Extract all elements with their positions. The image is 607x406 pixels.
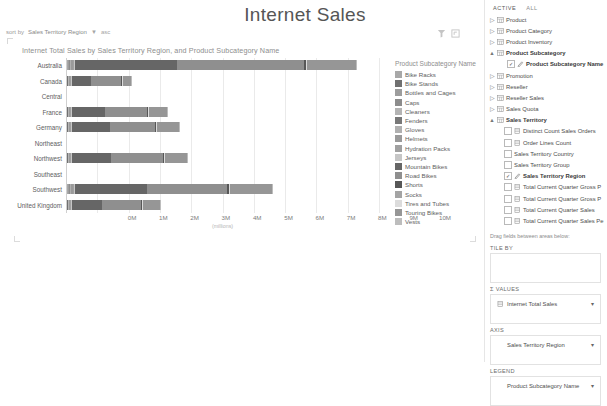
field-list-item[interactable]: Product Subcategory Name	[489, 59, 607, 70]
bar-segment[interactable]	[165, 153, 187, 163]
bar-segment[interactable]	[143, 200, 160, 210]
field-list-item[interactable]: Sales Territory Country	[489, 148, 607, 159]
well-drop-area[interactable]: Product Subcategory Name▾	[490, 376, 601, 406]
bar-segment[interactable]	[72, 153, 111, 163]
bar-row[interactable]	[67, 122, 179, 132]
expander-icon[interactable]: ▲	[489, 117, 495, 123]
bar-row[interactable]	[67, 200, 161, 210]
bar-row[interactable]	[67, 184, 273, 194]
y-axis-category-label[interactable]: Germany	[36, 123, 62, 132]
bar-segment[interactable]	[72, 122, 110, 132]
focus-mode-icon[interactable]	[451, 29, 460, 38]
legend-item[interactable]: Bike Stands	[395, 79, 481, 88]
bar-segment[interactable]	[102, 200, 141, 210]
well-drop-area[interactable]: Internet Total Sales▾	[490, 294, 601, 324]
sort-direction-label[interactable]: asc	[101, 29, 110, 35]
y-axis-category-label[interactable]: Northwest	[34, 154, 62, 163]
legend-item[interactable]: Helmets	[395, 134, 481, 143]
bar-segment[interactable]	[149, 107, 168, 117]
y-axis-category-label[interactable]: Canada	[40, 77, 62, 86]
legend-item[interactable]: Socks	[395, 189, 481, 198]
bar-segment[interactable]	[187, 153, 188, 163]
field-list-item[interactable]: Total Current Quarter Sales Pe	[489, 215, 607, 226]
field-checkbox[interactable]	[504, 161, 512, 169]
bar-segment[interactable]	[272, 184, 273, 194]
legend-item[interactable]: Jerseys	[395, 153, 481, 162]
y-axis-category-label[interactable]: United Kingdom	[17, 201, 62, 210]
bar-segment[interactable]	[123, 76, 132, 86]
legend-item[interactable]: Mountain Bikes	[395, 162, 481, 171]
well-drop-area[interactable]: Sales Territory Region▾	[490, 335, 601, 365]
chevron-down-icon[interactable]: ▾	[591, 383, 594, 389]
bar-segment[interactable]	[105, 107, 147, 117]
bar-segment[interactable]	[179, 122, 180, 132]
chevron-down-icon[interactable]: ▼	[91, 29, 97, 35]
field-list-item[interactable]: Total Current Quarter Gross P	[489, 182, 607, 193]
field-checkbox[interactable]	[504, 183, 512, 191]
y-axis-category-label[interactable]: Australia	[38, 61, 63, 70]
legend-item[interactable]: Bike Racks	[395, 70, 481, 79]
expander-icon[interactable]: ▷	[489, 17, 495, 23]
field-checkbox[interactable]	[507, 60, 515, 68]
expander-icon[interactable]: ▷	[489, 39, 495, 45]
field-list-item[interactable]: Total Current Quarter Sales	[489, 204, 607, 215]
bar-segment[interactable]	[72, 200, 102, 210]
field-checkbox[interactable]	[504, 139, 512, 147]
well-field-chip[interactable]: Internet Total Sales▾	[494, 298, 597, 310]
bar-row[interactable]	[67, 153, 187, 163]
bar-segment[interactable]	[356, 60, 357, 70]
bar-segment[interactable]	[75, 184, 147, 194]
field-list-item[interactable]: Order Lines Count	[489, 137, 607, 148]
field-checkbox[interactable]	[504, 206, 512, 214]
field-list-item[interactable]: Sales Territory Region	[489, 171, 607, 182]
legend-item[interactable]: Gloves	[395, 125, 481, 134]
expander-icon[interactable]: ▲	[489, 50, 495, 56]
pane-tab-active[interactable]: ACTIVE	[493, 5, 516, 11]
y-axis-category-label[interactable]: Northeast	[35, 139, 62, 148]
legend-item[interactable]: Touring Bikes	[395, 208, 481, 217]
bar-segment[interactable]	[111, 153, 163, 163]
field-list-item[interactable]: ▷Promotion	[489, 70, 607, 81]
bar-segment[interactable]	[157, 122, 179, 132]
well-field-chip[interactable]: Product Subcategory Name▾	[494, 380, 597, 392]
y-axis-category-label[interactable]: Central	[42, 92, 62, 101]
field-checkbox[interactable]	[504, 195, 512, 203]
legend-item[interactable]: Tires and Tubes	[395, 199, 481, 208]
bar-segment[interactable]	[91, 76, 121, 86]
field-list-item[interactable]: ▷Reseller Sales	[489, 92, 607, 103]
legend-item[interactable]: Cleaners	[395, 107, 481, 116]
bar-segment[interactable]	[72, 107, 105, 117]
field-checkbox[interactable]	[504, 127, 512, 135]
bar-segment[interactable]	[147, 184, 227, 194]
sort-by-field[interactable]: Sales Territory Region	[28, 29, 87, 35]
well-drop-area[interactable]	[490, 253, 601, 283]
bar-segment[interactable]	[167, 107, 168, 117]
field-list-item[interactable]: Distinct Count Sales Orders	[489, 126, 607, 137]
sort-by-toolbar[interactable]: sort by Sales Territory Region ▼ asc	[6, 26, 110, 37]
bar-row[interactable]	[67, 76, 132, 86]
legend-item[interactable]: Bottles and Cages	[395, 88, 481, 97]
bar-segment[interactable]	[230, 184, 272, 194]
y-axis-category-label[interactable]: Southwest	[33, 185, 62, 194]
bar-segment[interactable]	[75, 60, 177, 70]
y-axis-category-label[interactable]: Southeast	[34, 170, 62, 179]
legend-item[interactable]: Vests	[395, 217, 481, 226]
field-list-item[interactable]: ▷Product	[489, 14, 607, 25]
legend-item[interactable]: Hydration Packs	[395, 144, 481, 153]
bar-segment[interactable]	[177, 60, 304, 70]
field-checkbox[interactable]	[504, 217, 512, 225]
bar-segment[interactable]	[160, 200, 161, 210]
bar-row[interactable]	[67, 60, 356, 70]
bar-segment[interactable]	[131, 76, 132, 86]
y-axis-category-label[interactable]: France	[42, 108, 62, 117]
field-list-item[interactable]: Total Current Quarter Gross P	[489, 193, 607, 204]
legend-item[interactable]: Road Bikes	[395, 171, 481, 180]
well-field-chip[interactable]: Sales Territory Region▾	[494, 339, 597, 351]
chevron-down-icon[interactable]: ▾	[591, 342, 594, 348]
legend-item[interactable]: Shorts	[395, 180, 481, 189]
chevron-down-icon[interactable]: ▾	[591, 301, 594, 307]
pane-tab-all[interactable]: ALL	[526, 5, 537, 11]
field-list-item[interactable]: ▷Reseller	[489, 81, 607, 92]
expander-icon[interactable]: ▷	[489, 106, 495, 112]
legend-item[interactable]: Caps	[395, 98, 481, 107]
